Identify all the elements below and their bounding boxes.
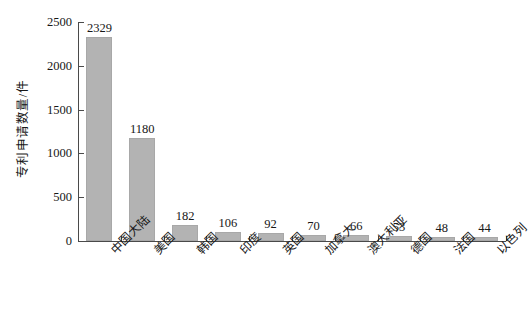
y-axis-title: 专利申请数量/件	[14, 13, 32, 245]
x-axis-category-label: 英国	[280, 247, 290, 257]
y-axis-line	[78, 22, 79, 242]
y-axis-tick-label: 500	[32, 191, 72, 203]
bar	[86, 37, 112, 241]
y-axis-tick-label: 2000	[32, 60, 72, 72]
x-axis-category-label: 法国	[451, 247, 461, 257]
x-axis-category-label: 美国	[151, 247, 161, 257]
x-axis-category-label: 印度	[237, 247, 247, 257]
x-axis-category-label: 韩国	[194, 247, 204, 257]
y-axis-tick	[79, 197, 84, 198]
y-axis-tick	[79, 241, 84, 242]
y-axis-tick	[79, 153, 84, 154]
x-axis-category-label: 澳大利亚	[365, 247, 375, 257]
x-axis-category-label: 中国大陆	[108, 247, 118, 257]
x-axis-category-label: 德国	[408, 247, 418, 257]
bar-value-label: 1180	[117, 123, 167, 136]
x-axis-category-label: 加拿大	[322, 247, 332, 257]
y-axis-tick-label: 2500	[32, 16, 72, 28]
y-axis-tick-label: 1500	[32, 104, 72, 116]
bar-chart: 专利申请数量/件 05001000150020002500 2329118018…	[0, 0, 529, 312]
y-axis-tick	[79, 110, 84, 111]
x-axis-tick	[78, 236, 79, 241]
y-axis-tick	[79, 66, 84, 67]
y-axis-tick-label: 1000	[32, 147, 72, 159]
bar-value-label: 2329	[74, 22, 124, 35]
y-axis-tick-label: 0	[32, 235, 72, 247]
x-axis-category-label: 以色列	[494, 247, 504, 257]
